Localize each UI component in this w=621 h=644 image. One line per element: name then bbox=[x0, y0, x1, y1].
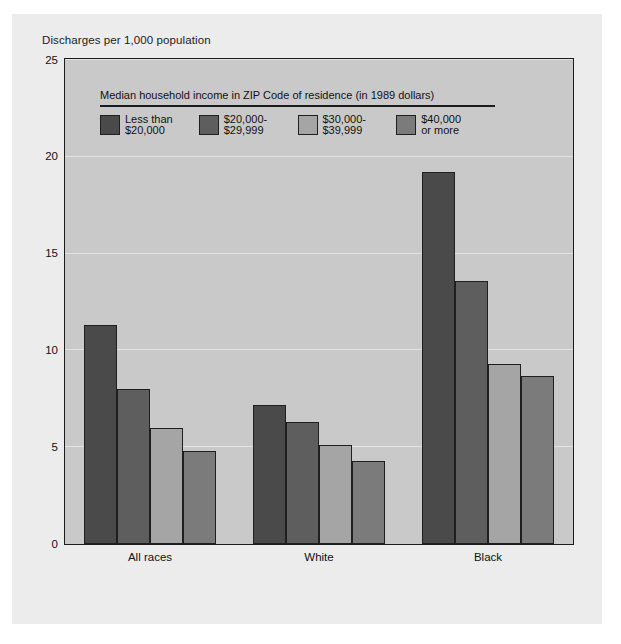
legend-item-label: $30,000- $39,999 bbox=[323, 114, 366, 137]
y-tick-label: 20 bbox=[18, 150, 58, 162]
legend-swatch bbox=[100, 115, 120, 135]
legend-swatch bbox=[298, 115, 318, 135]
legend-swatch bbox=[396, 115, 416, 135]
legend-item: Less than $20,000 bbox=[100, 114, 199, 137]
legend-item: $40,000 or more bbox=[396, 114, 495, 137]
y-tick-label: 15 bbox=[18, 247, 58, 259]
axis-title: Discharges per 1,000 population bbox=[42, 34, 211, 46]
y-tick-label: 25 bbox=[18, 54, 58, 66]
legend-item-label: $40,000 or more bbox=[421, 114, 461, 137]
y-tick-label: 10 bbox=[18, 344, 58, 356]
bar bbox=[183, 451, 216, 544]
x-axis-labels: All racesWhiteBlack bbox=[64, 551, 574, 573]
bar bbox=[117, 389, 150, 544]
bar bbox=[150, 428, 183, 544]
x-tick-label: White bbox=[304, 551, 333, 563]
y-axis: 0510152025 bbox=[12, 58, 58, 545]
bar bbox=[286, 422, 319, 544]
bar bbox=[521, 376, 554, 544]
bar bbox=[488, 364, 521, 544]
x-tick-label: All races bbox=[128, 551, 172, 563]
legend-item-label: Less than $20,000 bbox=[125, 114, 173, 137]
legend-item: $20,000- $29,999 bbox=[199, 114, 298, 137]
plot-area: Median household income in ZIP Code of r… bbox=[64, 58, 574, 545]
bar bbox=[84, 325, 117, 544]
bar bbox=[455, 281, 488, 544]
legend-item-label: $20,000- $29,999 bbox=[224, 114, 267, 137]
legend-item: $30,000- $39,999 bbox=[298, 114, 397, 137]
legend: Median household income in ZIP Code of r… bbox=[100, 89, 495, 137]
bar bbox=[352, 461, 385, 544]
y-tick-label: 5 bbox=[18, 441, 58, 453]
legend-swatch bbox=[199, 115, 219, 135]
legend-items: Less than $20,000$20,000- $29,999$30,000… bbox=[100, 107, 495, 137]
legend-title: Median household income in ZIP Code of r… bbox=[100, 89, 495, 105]
x-tick-label: Black bbox=[474, 551, 502, 563]
bar bbox=[319, 445, 352, 544]
bar bbox=[422, 172, 455, 544]
y-tick-label: 0 bbox=[18, 538, 58, 550]
figure-panel: Discharges per 1,000 population 05101520… bbox=[12, 14, 602, 624]
bar bbox=[253, 405, 286, 544]
